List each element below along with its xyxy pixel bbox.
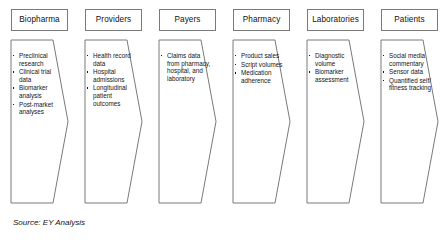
bullet-item: Post-market analyses: [13, 101, 63, 116]
source-caption: Source: EY Analysis: [13, 218, 85, 227]
column-bullet-list-biopharma: Preclinical researchClinical trial dataB…: [13, 52, 63, 117]
bullet-item: Claims data from pharmacy, hospital, and…: [161, 52, 211, 82]
column-header-box-payers[interactable]: Payers: [159, 9, 216, 31]
column-header-box-laboratories[interactable]: Laboratories: [307, 9, 364, 31]
bullet-item: Medication adherence: [235, 69, 285, 84]
bullet-item: Clinical trial data: [13, 68, 63, 83]
column-header-label: Payers: [174, 16, 200, 24]
chevron-column-laboratories[interactable]: LaboratoriesDiagnostic volumeBiomarker a…: [296, 0, 370, 204]
bullet-item: Quantified self/ fitness tracking: [383, 77, 433, 92]
column-bullet-list-laboratories: Diagnostic volumeBiomarker assessment: [309, 52, 359, 84]
chevron-column-biopharma[interactable]: BiopharmaPreclinical researchClinical tr…: [0, 0, 74, 204]
bullet-item: Sensor data: [383, 68, 433, 76]
column-header-label: Providers: [96, 16, 131, 24]
bullet-item: Product sales: [235, 52, 285, 60]
column-header-label: Biopharma: [19, 16, 60, 24]
column-header-label: Pharmacy: [243, 16, 281, 24]
data-sources-chevron-diagram: BiopharmaPreclinical researchClinical tr…: [0, 0, 444, 244]
column-header-box-patients[interactable]: Patients: [381, 9, 438, 31]
bullet-item: Biomarker assessment: [309, 68, 359, 83]
bullet-item: Biomarker analysis: [13, 84, 63, 99]
bullet-item: Hospital admissions: [87, 68, 137, 83]
bullet-item: Social media commentary: [383, 52, 433, 67]
column-header-box-providers[interactable]: Providers: [85, 9, 142, 31]
column-header-label: Patients: [394, 16, 424, 24]
chevron-column-pharmacy[interactable]: PharmacyProduct salesScript volumesMedic…: [222, 0, 296, 204]
column-bullet-list-payers: Claims data from pharmacy, hospital, and…: [161, 52, 211, 83]
bullet-item: Script volumes: [235, 61, 285, 69]
column-header-box-biopharma[interactable]: Biopharma: [11, 9, 68, 31]
column-bullet-list-patients: Social media commentarySensor dataQuanti…: [383, 52, 433, 93]
bullet-item: Health record data: [87, 52, 137, 67]
chevron-column-payers[interactable]: PayersClaims data from pharmacy, hospita…: [148, 0, 222, 204]
column-bullet-list-pharmacy: Product salesScript volumesMedication ad…: [235, 52, 285, 85]
column-bullet-list-providers: Health record dataHospital admissionsLon…: [87, 52, 137, 108]
chevron-column-list: BiopharmaPreclinical researchClinical tr…: [0, 0, 444, 204]
bullet-item: Longitudinal patient outcomes: [87, 84, 137, 107]
column-header-label: Laboratories: [312, 16, 359, 24]
bullet-item: Preclinical research: [13, 52, 63, 67]
chevron-column-patients[interactable]: PatientsSocial media commentarySensor da…: [370, 0, 444, 204]
chevron-column-providers[interactable]: ProvidersHealth record dataHospital admi…: [74, 0, 148, 204]
column-header-box-pharmacy[interactable]: Pharmacy: [233, 9, 290, 31]
bullet-item: Diagnostic volume: [309, 52, 359, 67]
